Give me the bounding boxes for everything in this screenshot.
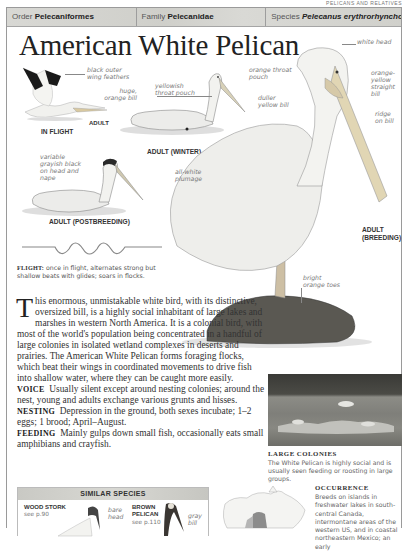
nesting-paragraph: NESTING Depression in the ground, both s… (17, 406, 267, 428)
annotation-ridge: ridge on bill (375, 110, 400, 124)
annotation-bare-head: bare head (108, 506, 126, 520)
similar-species-brown-pelican-name: BROWNPELICAN (132, 504, 158, 518)
annotation-grayish-head: variable grayish black on head and nape (40, 153, 85, 181)
occurrence-text: Breeds on islands in freshwater lakes in… (315, 493, 406, 551)
annotation-white-head: white head (357, 38, 391, 45)
voice-text: Usually silent except around nesting col… (17, 384, 264, 405)
similar-species-title: SIMILAR SPECIES (18, 488, 208, 500)
occurrence-title: OCCURRENCE (315, 484, 369, 491)
intro-paragraph: This enormous, unmistakable white bird, … (17, 296, 267, 384)
taxonomy-bar: Order Pelecaniformes Family Pelecanidae … (7, 8, 401, 27)
order-value: Pelecaniformes (35, 12, 94, 21)
caption-adult-flight: ADULT (89, 119, 109, 127)
similar-species-wood-stork-ref: see p.90 (24, 511, 49, 517)
feeding-paragraph: FEEDING Mainly gulps down small fish, oc… (17, 428, 267, 450)
annotation-orange-toes: bright orange toes (303, 274, 343, 288)
species-value: Pelecanus erythrorhynchos (302, 12, 401, 21)
nesting-label: NESTING (17, 407, 55, 416)
leader-line (342, 44, 356, 45)
name-line: PELICAN (132, 511, 158, 517)
running-head: PELICANS AND RELATIVES (326, 0, 402, 6)
species-label: Species (271, 12, 299, 21)
annotation-orange-yellow-bill: orange-yellow straight bill (371, 69, 401, 97)
flight-description: FLIGHT: once in flight, alternates stron… (17, 264, 162, 280)
caption-in-flight: IN FLIGHT (41, 128, 73, 136)
annotation-all-white: all-white plumage (175, 168, 210, 182)
annotation-duller-bill: duller yellow bill (258, 94, 292, 108)
occurrence-range-map (213, 486, 308, 528)
voice-paragraph: VOICE Usually silent except around nesti… (17, 384, 267, 406)
similar-species-brown-pelican-ref: see p.110 (132, 519, 161, 525)
brown-pelican-illustration (162, 502, 186, 536)
taxonomy-family: Family Pelecanidae (137, 8, 267, 26)
taxonomy-order: Order Pelecaniformes (7, 8, 137, 26)
species-page: Order Pelecaniformes Family Pelecanidae … (6, 7, 402, 528)
taxonomy-species: Species Pelecanus erythrorhynchos (266, 8, 401, 26)
annotation-orange-pouch: orange throat pouch (249, 66, 294, 80)
intro-text: his enormous, unmistakable white bird, w… (17, 296, 262, 383)
drop-cap: T (16, 297, 33, 319)
wood-stork-illustration (58, 504, 108, 536)
large-colonies-photo (268, 374, 402, 446)
caption-line: (BREEDING) (362, 234, 401, 241)
large-colonies-title: LARGE COLONIES (268, 450, 337, 457)
species-description: This enormous, unmistakable white bird, … (17, 296, 267, 450)
flight-pattern-wave-icon (17, 237, 162, 261)
name-line: BROWN (132, 504, 155, 510)
family-value: Pelecanidae (167, 12, 213, 21)
family-label: Family (142, 12, 166, 21)
order-label: Order (12, 12, 32, 21)
leader-line (301, 288, 302, 303)
caption-line: ADULT (362, 226, 384, 233)
flight-label: FLIGHT: (17, 264, 44, 271)
caption-adult-breeding: ADULT(BREEDING) (362, 226, 401, 242)
leader-line (65, 74, 85, 75)
annotation-gray-bill: gray bill (188, 512, 208, 526)
similar-species-box: SIMILAR SPECIES WOOD STORK see p.90 bare… (17, 487, 209, 536)
large-colonies-text: The White Pelican is highly social and i… (268, 459, 406, 483)
feeding-label: FEEDING (17, 429, 56, 438)
voice-label: VOICE (17, 385, 45, 394)
caption-adult-postbreeding: ADULT (POSTBREEDING) (49, 218, 130, 226)
